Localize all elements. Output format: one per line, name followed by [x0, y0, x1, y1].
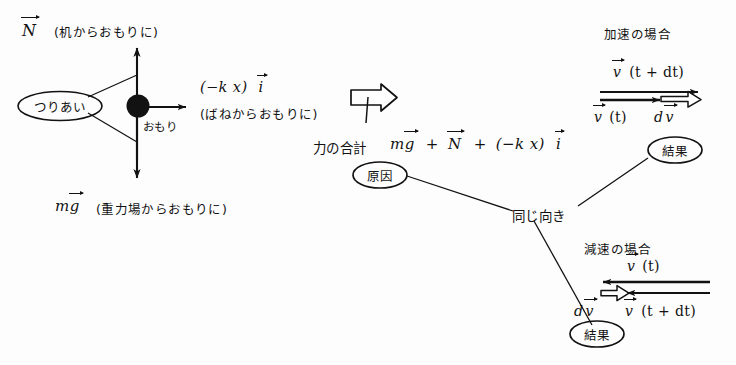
decel-vector-figure — [601, 282, 710, 301]
same-direction-label: 同じ向き — [512, 205, 566, 225]
force-sum-expression: mg + N + (−k x) i — [390, 134, 561, 153]
accel-result-badge: 結果 — [648, 140, 702, 160]
balance-leader-upper — [88, 75, 137, 97]
decel-v-t-label: v (t) — [627, 257, 660, 274]
cause-badge: 原因 — [353, 165, 407, 185]
connector-cause-to-relation — [407, 176, 513, 211]
implication-block-arrow — [351, 84, 397, 123]
force-sum-prefix: 力の合計 — [313, 137, 367, 157]
connector-relation-to-accel-result — [578, 158, 648, 206]
gravity-force-note: (重力場からおもりに) — [96, 199, 227, 218]
normal-force-label: N — [22, 20, 36, 40]
diagram-canvas: N (机からおもりに) つりあい おもり (−k x) i (ばねからおもりに)… — [0, 0, 736, 365]
mass-label: おもり — [143, 118, 177, 134]
spring-force-note: (ばねからおもりに) — [200, 104, 318, 123]
gravity-force-label: mg — [55, 196, 80, 215]
mass-dot — [127, 95, 150, 118]
balance-badge: つりあい — [18, 96, 102, 116]
decel-v-t-dt-label: v (t + dt) — [625, 302, 696, 319]
accel-v-t-dt-label: v (t + dt) — [613, 63, 684, 80]
free-body-axes — [127, 48, 187, 178]
decel-dv-label: dv — [574, 302, 594, 319]
decel-result-badge: 結果 — [570, 324, 624, 344]
normal-force-note: (机からおもりに) — [54, 22, 158, 41]
decel-case-heading: 減速の場合 — [584, 239, 651, 258]
accel-v-t-label: v (t) — [594, 108, 627, 125]
accel-case-heading: 加速の場合 — [604, 24, 671, 43]
accel-dv-label: dv — [654, 108, 674, 125]
accel-vector-figure — [600, 91, 701, 107]
spring-force-label: (−k x) i — [200, 78, 264, 95]
balance-leader-lower — [88, 113, 137, 142]
